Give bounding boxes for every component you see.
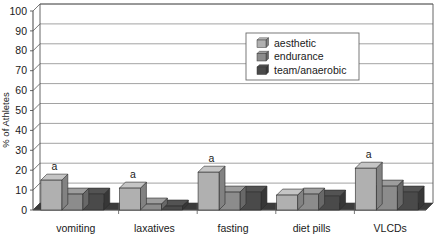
- legend-label: team/anaerobic: [274, 64, 346, 76]
- significance-annotation: a: [130, 168, 136, 180]
- bar-front-face: [119, 188, 140, 210]
- legend-swatch: [257, 67, 266, 75]
- y-tick-label: 80: [15, 44, 27, 56]
- y-tick-label: 100: [9, 5, 27, 17]
- y-tick-label: 30: [15, 144, 27, 156]
- y-tick-label: 20: [15, 164, 27, 176]
- bar-front-face: [198, 172, 219, 210]
- bar-side-face: [376, 162, 382, 210]
- bar-side-face: [219, 166, 225, 210]
- y-tick-label: 50: [15, 104, 27, 116]
- legend-label: aesthetic: [274, 37, 316, 49]
- y-tick-label: 40: [15, 124, 27, 136]
- x-tick-label: VLCDs: [374, 222, 407, 234]
- y-tick-label: 70: [15, 64, 27, 76]
- legend-label: endurance: [274, 50, 324, 62]
- bar-front-face: [355, 168, 376, 210]
- significance-annotation: a: [209, 152, 215, 164]
- y-axis-title: % of Athletes: [0, 92, 11, 148]
- chart-container: 0102030405060708090100 aaaa vomitinglaxa…: [0, 0, 446, 238]
- y-tick-label: 90: [15, 25, 27, 37]
- bar-front-face: [277, 195, 298, 210]
- grouped-bar-chart-3d: 0102030405060708090100 aaaa vomitinglaxa…: [0, 0, 446, 238]
- bar: [41, 174, 68, 210]
- legend-swatch: [257, 54, 266, 62]
- bar: [355, 162, 382, 210]
- bar: [119, 182, 146, 210]
- significance-annotation: a: [366, 148, 372, 160]
- y-tick-label: 0: [21, 204, 27, 216]
- legend: aestheticenduranceteam/anaerobic: [246, 33, 359, 80]
- legend-item: aesthetic: [257, 37, 316, 49]
- y-axis-title-group: % of Athletes: [0, 92, 11, 148]
- x-tick-label: laxatives: [134, 222, 175, 234]
- y-tick-label: 10: [15, 184, 27, 196]
- y-tick-label: 60: [15, 84, 27, 96]
- x-tick-label: fasting: [218, 222, 249, 234]
- x-tick-label: vomiting: [56, 222, 95, 234]
- bar: [198, 166, 225, 210]
- legend-swatch: [257, 40, 266, 48]
- bar-front-face: [41, 180, 62, 210]
- y-axis-tick-labels: 0102030405060708090100: [9, 5, 27, 216]
- x-tick-label: diet pills: [293, 222, 331, 234]
- significance-annotation: a: [51, 160, 57, 172]
- bar: [277, 189, 304, 210]
